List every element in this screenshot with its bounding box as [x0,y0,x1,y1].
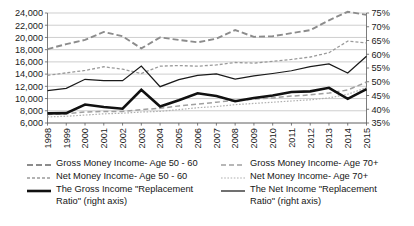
series-line-0 [48,12,367,49]
chart-figure: 6,0008,00010,00012,00014,00016,00018,000… [0,0,414,226]
series-line-5 [48,56,367,90]
x-axis-tick-label: 2010 [268,128,278,148]
y-axis-left-tick-label: 14,000 [15,69,43,79]
y-axis-left-tick-label: 20,000 [15,33,43,43]
y-axis-left-tick-label: 10,000 [15,94,43,104]
legend-item-label: Gross Money Income- Age 50 - 60 [56,158,198,170]
x-axis-tick-label: 2007 [212,128,222,148]
series-line-3 [48,88,367,117]
legend-column-right: Gross Money Income- Age 70+ Net Money In… [220,158,414,208]
x-axis-tick-label: 2012 [306,128,316,148]
y-axis-right-tick-label: 60% [372,50,390,60]
y-axis-left-tick-label: 24,000 [15,8,43,18]
y-axis-left-tick-label: 12,000 [15,82,43,92]
x-axis-tick-label: 2006 [193,128,203,148]
legend-item[interactable]: Net Money Income- Age 50 - 60 [26,171,220,183]
y-axis-left-tick-label: 8,000 [20,106,43,116]
dashed-line-swatch [26,158,52,170]
legend-item[interactable]: The Net Income "Replacement Ratio" (righ… [220,184,414,207]
y-axis-left-tick-label: 18,000 [15,45,43,55]
y-axis-right-tick-label: 35% [372,118,390,128]
legend-item-label: The Net Income "Replacement Ratio" (righ… [250,184,377,207]
y-axis-left-tick-label: 6,000 [20,118,43,128]
x-axis-tick-label: 2015 [362,128,372,148]
y-axis-right-tick-label: 55% [372,63,390,73]
legend-item-label: Gross Money Income- Age 70+ [250,158,378,170]
x-axis-tick-label: 2001 [99,128,109,148]
x-axis-tick-label: 2004 [155,128,165,148]
dotted-line-swatch [26,171,52,183]
x-axis-tick-label: 2002 [118,128,128,148]
x-axis-tick-label: 2000 [80,128,90,148]
y-axis-right-tick-label: 40% [372,105,390,115]
x-axis-tick-label: 1999 [62,128,72,148]
x-axis-tick-label: 1998 [43,128,53,148]
chart-legend: Gross Money Income- Age 50 - 60 Net Mone… [26,158,414,208]
legend-item-label: The Gross Income "Replacement Ratio" (ri… [56,184,193,207]
legend-item[interactable]: The Gross Income "Replacement Ratio" (ri… [26,184,220,207]
fine-dotted-line-swatch [220,171,246,183]
legend-item-label: Net Money Income- Age 50 - 60 [56,171,187,183]
series-line-4 [48,88,367,114]
y-axis-right-tick-label: 50% [372,77,390,87]
dashed-line-swatch [220,158,246,170]
y-axis-left-tick-label: 16,000 [15,57,43,67]
legend-item-label: Net Money Income- Age 70+ [250,171,368,183]
y-axis-left-tick-label: 22,000 [15,21,43,31]
x-axis-tick-label: 2005 [174,128,184,148]
solid-thin-line-swatch [220,184,246,196]
y-axis-right-tick-label: 65% [372,36,390,46]
x-axis-tick-label: 2003 [137,128,147,148]
legend-item[interactable]: Net Money Income- Age 70+ [220,171,414,183]
y-axis-right-tick-label: 70% [372,22,390,32]
y-axis-right-tick-label: 75% [372,8,390,18]
legend-column-left: Gross Money Income- Age 50 - 60 Net Mone… [26,158,220,208]
x-axis-tick-label: 2008 [230,128,240,148]
x-axis-tick-label: 2011 [287,128,297,148]
legend-item[interactable]: Gross Money Income- Age 50 - 60 [26,158,220,170]
x-axis-tick-label: 2013 [324,128,334,148]
x-axis-tick-label: 2014 [343,128,353,148]
series-line-1 [48,41,367,75]
legend-item[interactable]: Gross Money Income- Age 70+ [220,158,414,170]
solid-thick-line-swatch [26,184,52,196]
y-axis-right-tick-label: 45% [372,91,390,101]
x-axis-tick-label: 2009 [249,128,259,148]
